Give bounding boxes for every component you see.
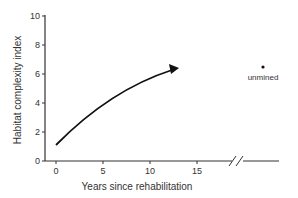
unmined-point	[261, 65, 264, 68]
svg-text:5: 5	[100, 166, 105, 176]
svg-text:0: 0	[53, 166, 58, 176]
y-axis-label: Habitat complexity index	[12, 36, 23, 144]
svg-text:0: 0	[35, 156, 40, 166]
svg-text:15: 15	[192, 166, 202, 176]
svg-text:10: 10	[30, 11, 40, 21]
svg-text:10: 10	[145, 166, 155, 176]
chart: 0 2 4 6 8 10 0 5 10 15 Years since rehab…	[0, 0, 298, 198]
arrowhead-icon	[169, 64, 179, 74]
y-tick-labels: 0 2 4 6 8 10	[30, 11, 40, 166]
x-axis-label: Years since rehabilitation	[82, 181, 193, 192]
trajectory-curve	[56, 70, 172, 145]
x-tick-labels: 0 5 10 15	[53, 166, 202, 176]
svg-text:4: 4	[35, 98, 40, 108]
svg-text:8: 8	[35, 40, 40, 50]
svg-text:2: 2	[35, 127, 40, 137]
unmined-label: unmined	[248, 73, 279, 82]
svg-text:6: 6	[35, 69, 40, 79]
